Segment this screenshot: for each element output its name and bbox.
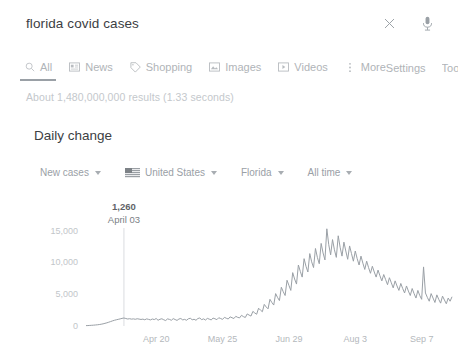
filter-country[interactable]: United States bbox=[125, 167, 217, 178]
tab-shopping-label: Shopping bbox=[146, 61, 193, 73]
chevron-down-icon bbox=[346, 171, 352, 175]
y-axis: 05,00010,00015,000 bbox=[50, 226, 78, 331]
close-icon[interactable] bbox=[379, 13, 399, 33]
filter-state-label: Florida bbox=[241, 167, 272, 178]
search-input[interactable]: florida covid cases bbox=[26, 16, 139, 31]
annotation-value: 1,260 bbox=[112, 201, 136, 212]
chevron-down-icon bbox=[95, 171, 101, 175]
y-axis-tick: 10,000 bbox=[50, 257, 78, 267]
settings-button[interactable]: Settings bbox=[386, 62, 426, 74]
chevron-down-icon bbox=[211, 171, 217, 175]
chevron-down-icon bbox=[278, 171, 284, 175]
tab-all-label: All bbox=[40, 61, 52, 73]
y-axis-tick: 15,000 bbox=[50, 226, 78, 236]
tab-videos-label: Videos bbox=[294, 61, 327, 73]
filter-metric[interactable]: New cases bbox=[40, 167, 101, 178]
page-title: Daily change bbox=[34, 128, 112, 143]
search-bar: florida covid cases bbox=[0, 0, 459, 46]
result-count: About 1,480,000,000 results (1.33 second… bbox=[26, 91, 234, 103]
tab-all[interactable]: All bbox=[24, 61, 52, 75]
filter-state[interactable]: Florida bbox=[241, 167, 284, 178]
x-axis-tick: Sep 7 bbox=[410, 334, 434, 344]
video-icon bbox=[278, 62, 289, 73]
kebab-icon bbox=[345, 62, 356, 73]
tab-videos[interactable]: Videos bbox=[278, 61, 327, 75]
search-results-page: florida covid cases bbox=[0, 0, 459, 353]
filter-metric-label: New cases bbox=[40, 167, 89, 178]
tag-icon bbox=[130, 62, 141, 73]
nav-tabs: All News bbox=[0, 55, 459, 81]
nav-tabs-left: All News bbox=[24, 61, 386, 75]
chart-annotation: 1,260April 03 bbox=[108, 201, 140, 326]
image-icon bbox=[209, 62, 220, 73]
search-actions bbox=[379, 13, 437, 33]
tab-news-label: News bbox=[85, 61, 113, 73]
filter-country-label: United States bbox=[145, 167, 205, 178]
y-axis-tick: 5,000 bbox=[55, 289, 78, 299]
daily-change-chart[interactable]: 05,00010,00015,000 Apr 20May 25Jun 29Aug… bbox=[0, 200, 459, 353]
x-axis: Apr 20May 25Jun 29Aug 3Sep 7 bbox=[143, 334, 434, 344]
annotation-date: April 03 bbox=[108, 214, 140, 225]
x-axis-tick: May 25 bbox=[208, 334, 238, 344]
chart-svg: 05,00010,00015,000 Apr 20May 25Jun 29Aug… bbox=[0, 200, 459, 353]
nav-tabs-right: Settings Tools bbox=[386, 62, 458, 74]
filter-timerange[interactable]: All time bbox=[308, 167, 353, 178]
tab-images-label: Images bbox=[225, 61, 261, 73]
search-icon bbox=[24, 62, 35, 73]
tab-more-label: More bbox=[361, 61, 386, 73]
tab-shopping[interactable]: Shopping bbox=[130, 61, 193, 75]
y-axis-tick: 0 bbox=[73, 321, 78, 331]
tab-images[interactable]: Images bbox=[209, 61, 261, 75]
x-axis-tick: Apr 20 bbox=[143, 334, 170, 344]
microphone-icon[interactable] bbox=[417, 13, 437, 33]
tab-news[interactable]: News bbox=[69, 61, 113, 75]
tab-more[interactable]: More bbox=[345, 61, 386, 75]
tools-button[interactable]: Tools bbox=[442, 62, 458, 74]
news-icon bbox=[69, 62, 80, 73]
x-axis-tick: Aug 3 bbox=[344, 334, 368, 344]
filter-timerange-label: All time bbox=[308, 167, 341, 178]
x-axis-tick: Jun 29 bbox=[275, 334, 302, 344]
chart-filters: New cases United States Florida All time bbox=[40, 167, 352, 178]
case-series-line bbox=[86, 229, 452, 326]
us-flag-icon bbox=[125, 168, 140, 178]
